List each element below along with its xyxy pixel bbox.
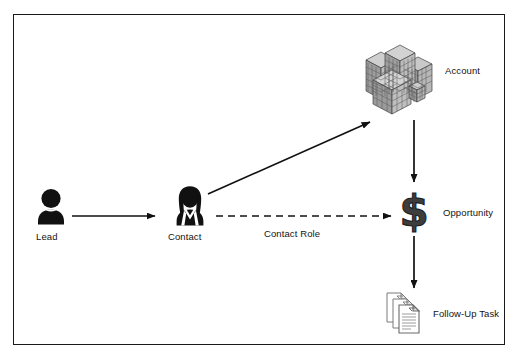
node-label-contact: Contact (168, 231, 201, 242)
node-contact[interactable] (171, 185, 209, 227)
diagram-canvas: Lead Contact (0, 0, 518, 359)
node-account[interactable] (356, 36, 434, 118)
dollar-sign-icon: $ (397, 189, 431, 235)
node-lead[interactable] (33, 187, 69, 227)
buildings-icon (356, 36, 434, 118)
person-icon (33, 187, 69, 227)
node-opportunity[interactable]: $ (397, 189, 431, 235)
documents-stack-icon (384, 291, 428, 335)
node-label-lead: Lead (36, 231, 58, 242)
person-female-icon (171, 185, 209, 227)
node-followup-task[interactable] (384, 291, 428, 335)
edge-contact-to-account (208, 122, 370, 194)
node-label-followup-task: Follow-Up Task (433, 308, 499, 319)
node-label-opportunity: Opportunity (443, 207, 493, 218)
connector-layer (0, 0, 518, 359)
svg-text:$: $ (399, 189, 428, 235)
node-label-account: Account (445, 65, 480, 76)
edge-label-contact-role: Contact Role (264, 228, 320, 239)
